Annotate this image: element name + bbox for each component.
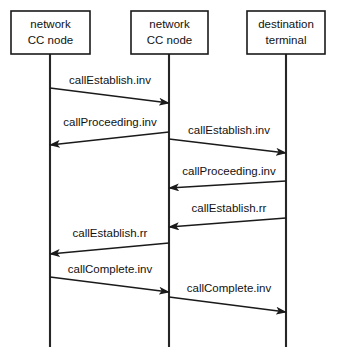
message-arrow-right — [169, 297, 286, 312]
message-label: callComplete.inv — [68, 263, 153, 275]
participant-label-line2: terminal — [266, 34, 307, 46]
message-arrow-left — [50, 132, 169, 145]
message-arrow-left — [169, 218, 286, 227]
sequence-diagram: networkCC nodenetworkCC nodedestinationt… — [0, 0, 337, 359]
message-arrow-right — [50, 277, 169, 292]
message-label: callEstablish.inv — [69, 74, 151, 86]
lifelines-group — [50, 54, 286, 347]
message-msg-8[interactable]: callComplete.inv — [169, 282, 286, 312]
message-msg-2[interactable]: callProceeding.inv — [50, 116, 169, 145]
participant-label-line2: CC node — [28, 34, 73, 46]
participants-group: networkCC nodenetworkCC nodedestinationt… — [11, 11, 325, 54]
message-label: callEstablish.rr — [192, 202, 267, 214]
participant-label-line1: network — [30, 18, 71, 30]
message-label: callComplete.inv — [187, 282, 272, 294]
participant-destination-terminal[interactable]: destinationterminal — [247, 11, 325, 54]
message-label: callEstablish.inv — [188, 124, 270, 136]
message-msg-7[interactable]: callComplete.inv — [50, 263, 169, 292]
message-msg-4[interactable]: callProceeding.inv — [169, 165, 286, 188]
message-label: callEstablish.rr — [73, 227, 148, 239]
message-label: callProceeding.inv — [182, 165, 276, 177]
message-msg-3[interactable]: callEstablish.inv — [169, 124, 286, 153]
message-arrow-right — [169, 139, 286, 153]
participant-label-line1: network — [149, 18, 190, 30]
participant-origin-network-cc-node[interactable]: networkCC node — [11, 11, 90, 54]
message-msg-5[interactable]: callEstablish.rr — [169, 202, 286, 227]
participant-label-line2: CC node — [147, 34, 192, 46]
sequence-diagram-canvas: networkCC nodenetworkCC nodedestinationt… — [0, 0, 337, 359]
participant-transit-network-cc-node[interactable]: networkCC node — [131, 11, 208, 54]
message-arrow-left — [169, 181, 286, 188]
message-label: callProceeding.inv — [63, 116, 157, 128]
participant-label-line1: destination — [258, 18, 314, 30]
message-arrow-left — [50, 243, 169, 254]
message-msg-1[interactable]: callEstablish.inv — [50, 74, 169, 103]
message-arrow-right — [50, 88, 169, 103]
message-msg-6[interactable]: callEstablish.rr — [50, 227, 169, 254]
